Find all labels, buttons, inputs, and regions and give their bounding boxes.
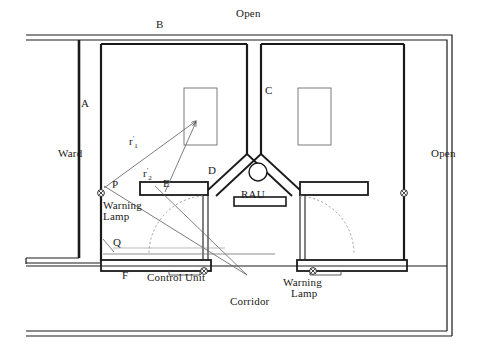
label-zone-b: B <box>156 19 164 31</box>
warning-lamp-icon-left-wall[interactable] <box>98 190 105 197</box>
label-ward: Ward <box>58 148 82 160</box>
label-ray-r2-sub: 2 <box>148 174 152 182</box>
label-point-p: P <box>112 179 118 191</box>
counter-slab-left <box>140 182 208 195</box>
warning-lamp-icon-right-room[interactable] <box>310 268 317 275</box>
label-zone-e: E <box>163 178 170 190</box>
label-zone-f: F <box>122 270 128 282</box>
ward-a-bottom-wall <box>26 258 100 263</box>
bed-right <box>298 88 331 145</box>
label-point-q: Q <box>113 237 121 249</box>
label-open-top: Open <box>236 8 261 20</box>
label-warning-lamp-left-line2: Lamp <box>103 211 129 223</box>
label-zone-c: C <box>265 85 273 97</box>
label-corridor: Corridor <box>230 296 269 308</box>
label-rau: RAU <box>241 189 265 201</box>
bed-left <box>184 88 217 145</box>
rau-circle-icon <box>249 163 267 181</box>
outer-envelope-wall <box>26 35 452 336</box>
label-zone-a: A <box>81 98 89 110</box>
door-swing-arc-right <box>300 196 354 254</box>
label-warning-lamp-right-line2: Lamp <box>291 288 317 300</box>
door-jamb-right <box>300 195 305 260</box>
floor-plan-figure: Open B Open A Ward C D E F RAU P Q r'1 r… <box>0 0 480 349</box>
warning-lamp-icon-right-wall[interactable] <box>401 190 408 197</box>
label-zone-d: D <box>208 165 216 177</box>
label-ray-r1-sub: 1 <box>134 142 138 150</box>
label-ray-r1: r'1 <box>129 136 138 148</box>
counter-slab-right <box>300 182 368 195</box>
label-control-unit: Control Unit <box>147 272 205 284</box>
label-open-right: Open <box>431 148 456 160</box>
label-ray-r2: r'2 <box>143 168 152 180</box>
